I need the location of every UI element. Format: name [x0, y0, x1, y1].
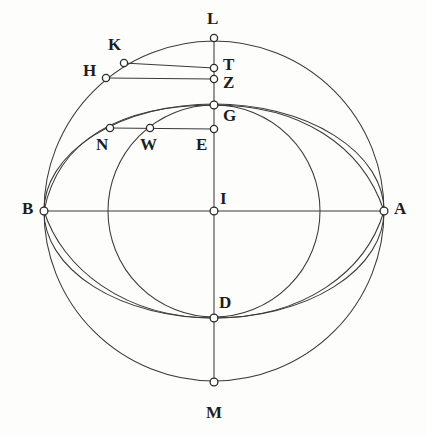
point-label-i: I — [220, 190, 227, 207]
point-label-m: M — [206, 404, 222, 421]
point-label-a: A — [394, 200, 406, 217]
point-label-b: B — [22, 200, 33, 217]
point-label-z: Z — [223, 74, 234, 91]
point-marker-z — [210, 75, 217, 82]
chord-hz — [106, 78, 214, 79]
chord-kt — [124, 63, 214, 68]
point-label-t: T — [223, 56, 234, 73]
chord-ne — [110, 128, 214, 129]
point-marker-d — [210, 314, 218, 322]
geometry-diagram: L K T H Z G N W E B I A D M — [0, 0, 427, 436]
point-marker-e — [210, 125, 217, 132]
point-label-k: K — [108, 36, 121, 53]
point-label-d: D — [219, 294, 231, 311]
point-marker-g — [210, 101, 218, 109]
point-marker-w — [146, 124, 153, 131]
point-marker-n — [106, 124, 113, 131]
point-label-g: G — [223, 107, 236, 124]
point-marker-l — [210, 34, 217, 41]
point-label-n: N — [96, 136, 108, 153]
point-label-e: E — [196, 136, 207, 153]
point-marker-h — [102, 74, 109, 81]
point-label-w: W — [140, 136, 157, 153]
point-marker-b — [40, 207, 48, 215]
point-marker-t — [210, 64, 217, 71]
point-marker-i — [210, 207, 218, 215]
point-label-h: H — [83, 62, 96, 79]
point-label-l: L — [207, 10, 218, 27]
point-marker-a — [380, 207, 388, 215]
point-marker-m — [210, 378, 218, 386]
diagram-canvas — [0, 0, 427, 436]
point-marker-k — [120, 59, 127, 66]
